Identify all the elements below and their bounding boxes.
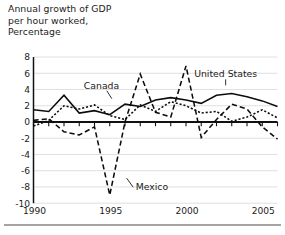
- annotation-mexico: Mexico: [136, 181, 169, 192]
- x-tick-label: 2000: [175, 206, 198, 216]
- annotation-united-states: United States: [194, 68, 257, 79]
- y-tick-label: -2: [21, 134, 30, 144]
- chart-figure: Annual growth of GDP per hour worked, Pe…: [0, 0, 285, 235]
- y-tick-label: 6: [24, 69, 30, 79]
- x-tick-label: 2005: [252, 206, 275, 216]
- series-line-mexico: [34, 66, 278, 195]
- leader-line: [107, 91, 112, 99]
- y-tick-label: -8: [21, 182, 30, 192]
- annotation-canada: Canada: [84, 80, 119, 91]
- y-tick-label: 0: [24, 117, 30, 127]
- x-tick-label: 1995: [99, 206, 122, 216]
- y-tick-label: 8: [24, 52, 30, 62]
- x-tick-label: 1990: [23, 206, 46, 216]
- y-tick-label: 2: [24, 101, 30, 111]
- leader-line: [127, 178, 134, 187]
- y-tick-label: 4: [24, 85, 30, 95]
- data-series-group: [34, 66, 278, 195]
- series-annotations: CanadaUnited StatesMexico: [84, 68, 257, 192]
- x-axis-tick-labels: 1990199520002005: [23, 206, 275, 216]
- y-tick-label: -4: [21, 150, 30, 160]
- chart-plot-area: 86420-2-4-6-8-10 1990199520002005 Canada…: [0, 0, 285, 235]
- y-axis-tick-labels: 86420-2-4-6-8-10: [15, 52, 30, 208]
- y-tick-label: -6: [21, 166, 30, 176]
